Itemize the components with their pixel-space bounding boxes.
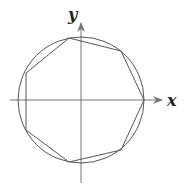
y-axis-label: y — [67, 5, 79, 24]
x-axis-label: x — [166, 91, 177, 110]
diagram-canvas: x y — [0, 0, 185, 188]
